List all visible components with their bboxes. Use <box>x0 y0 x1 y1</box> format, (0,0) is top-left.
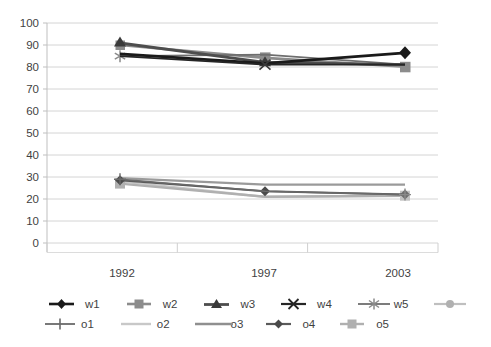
legend-item-o4[interactable]: o4 <box>265 314 315 334</box>
legend-label-w4: w4 <box>317 297 332 311</box>
legend-label-w3: w3 <box>240 297 255 311</box>
x-tick-label: 1992 <box>109 267 135 279</box>
square-marker-icon <box>339 317 373 331</box>
y-tick-label: 30 <box>26 171 39 183</box>
y-tick-label: 0 <box>33 237 39 249</box>
triangle-marker-icon <box>203 297 237 311</box>
y-tick-labels: 100 90 80 70 60 50 40 30 20 10 0 <box>20 17 39 249</box>
y-tick-label: 70 <box>26 83 39 95</box>
x-tick-label: 1997 <box>251 267 277 279</box>
legend-item-o5[interactable]: o5 <box>339 314 389 334</box>
legend-item-o2[interactable]: o2 <box>120 314 170 334</box>
legend-item-w3[interactable]: w3 <box>203 294 255 314</box>
diamond-marker-icon <box>48 297 82 311</box>
asterisk-marker-icon <box>357 297 391 311</box>
y-axis <box>43 23 47 252</box>
line-marker-icon <box>120 317 154 331</box>
plus-marker-icon <box>44 317 78 331</box>
legend-label-w2: w2 <box>163 297 178 311</box>
legend-item-w1[interactable]: w1 <box>48 294 100 314</box>
x-marker-icon <box>280 297 314 311</box>
chart-legend: w1 w2 w3 <box>0 294 491 340</box>
legend-row-2: o1 o2 o3 <box>0 314 491 334</box>
x-axis <box>47 243 438 253</box>
square-marker-icon <box>126 297 160 311</box>
legend-item-w5[interactable]: w5 <box>357 294 409 314</box>
y-tick-label: 10 <box>26 215 39 227</box>
legend-label-o4: o4 <box>302 317 315 331</box>
legend-label-w1: w1 <box>85 297 100 311</box>
y-tick-label: 60 <box>26 105 39 117</box>
chart-container: 100 90 80 70 60 50 40 30 20 10 0 1992 19… <box>0 0 491 347</box>
y-tick-label: 90 <box>26 39 39 51</box>
legend-label-o2: o2 <box>157 317 170 331</box>
legend-item-w2[interactable]: w2 <box>126 294 178 314</box>
y-tick-label: 20 <box>26 193 39 205</box>
y-tick-label: 40 <box>26 149 39 161</box>
y-tick-label: 80 <box>26 61 39 73</box>
legend-label-o1: o1 <box>81 317 94 331</box>
legend-label-w5: w5 <box>394 297 409 311</box>
x-tick-labels: 1992 1997 2003 <box>109 267 411 279</box>
diamond-marker-icon <box>265 317 299 331</box>
y-tick-label: 50 <box>26 127 39 139</box>
legend-item-w4[interactable]: w4 <box>280 294 332 314</box>
circle-marker-icon <box>433 297 467 311</box>
legend-item-o1[interactable]: o1 <box>44 314 94 334</box>
legend-item-w6[interactable] <box>433 294 470 314</box>
y-tick-label: 100 <box>20 17 39 29</box>
legend-row-1: w1 w2 w3 <box>0 294 491 314</box>
line-marker-icon <box>194 317 228 331</box>
legend-label-o5: o5 <box>376 317 389 331</box>
x-tick-label: 2003 <box>385 267 411 279</box>
legend-item-o3[interactable]: o3 <box>194 314 244 334</box>
